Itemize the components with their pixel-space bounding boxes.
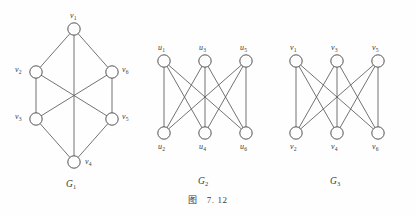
- graph-vertex-u2: [158, 127, 170, 139]
- graph-vertex-w6: [372, 127, 384, 139]
- graph-g3: [290, 55, 384, 139]
- graph-g1: [30, 23, 118, 168]
- vertex-label-v3: v3: [15, 113, 22, 121]
- graph-vertex-w2: [290, 127, 302, 139]
- vertex-label-v5: v5: [122, 113, 129, 121]
- figure-caption-number: 7. 12: [207, 195, 228, 205]
- graph-vertex-w4: [331, 127, 343, 139]
- vertex-label-v6: v6: [122, 66, 129, 74]
- vertex-label-u4: u4: [199, 143, 206, 151]
- graph-vertex-w3: [331, 55, 343, 67]
- graph-edge: [40, 34, 70, 68]
- graph-vertex-u3: [199, 55, 211, 67]
- vertex-label-u5: u5: [240, 44, 247, 52]
- graph-name-g1: G1: [66, 180, 76, 190]
- figure-caption-prefix: 图: [188, 195, 197, 205]
- graph-vertex-v2: [30, 66, 42, 78]
- vertex-label-v4: v4: [85, 158, 92, 166]
- vertex-label-u6: u6: [240, 143, 247, 151]
- vertex-label-u2: u2: [158, 143, 165, 151]
- graph-vertex-v6: [106, 66, 118, 78]
- graph-vertex-u1: [158, 55, 170, 67]
- vertex-label-w1: v1: [290, 44, 297, 52]
- graph-edge: [78, 34, 108, 68]
- vertex-label-w6: v6: [372, 143, 379, 151]
- graph-vertex-v1: [68, 23, 80, 35]
- graph-vertex-v4: [68, 156, 80, 168]
- vertex-label-w2: v2: [290, 143, 297, 151]
- vertex-label-w5: v5: [372, 44, 379, 52]
- graph-vertex-u5: [240, 55, 252, 67]
- vertex-label-u3: u3: [199, 44, 206, 52]
- figure-caption: 图7. 12: [0, 196, 416, 205]
- vertex-label-w4: v4: [331, 143, 338, 151]
- graph-edge: [40, 124, 70, 158]
- graph-name-g2: G2: [198, 177, 208, 187]
- graph-vertex-w5: [372, 55, 384, 67]
- graph-vertex-v5: [106, 113, 118, 125]
- vertex-label-u1: u1: [158, 44, 165, 52]
- figure-container: v1v2v3v4v5v6G1u1u3u5u2u4u6G2v1v3v5v2v4v6…: [0, 0, 416, 217]
- graph-vertex-u4: [199, 127, 211, 139]
- vertex-label-w3: v3: [331, 44, 338, 52]
- graph-g2: [158, 55, 252, 139]
- graph-vertex-u6: [240, 127, 252, 139]
- graph-vertex-v3: [30, 113, 42, 125]
- graph-edge: [78, 124, 108, 158]
- vertex-label-v1: v1: [70, 12, 77, 20]
- vertex-label-v2: v2: [15, 66, 22, 74]
- graph-vertex-w1: [290, 55, 302, 67]
- graph-name-g3: G3: [330, 177, 340, 187]
